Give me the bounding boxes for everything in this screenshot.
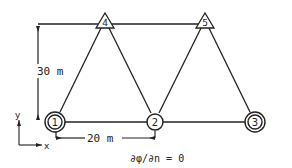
- coordinate-axes: [17, 120, 42, 147]
- node-1-label: 1: [52, 117, 58, 128]
- edge-1-4: [60, 24, 103, 112]
- edge-5-3: [207, 24, 250, 112]
- mesh-edges: [55, 24, 255, 122]
- x-axis-label: x: [44, 141, 50, 151]
- node-5-label: 5: [202, 18, 208, 28]
- horizontal-dimension-label: 20 m: [87, 132, 114, 145]
- node-2: 2: [147, 114, 163, 130]
- node-4: 4: [96, 13, 114, 28]
- arrowhead-right-icon: [149, 136, 155, 140]
- arrowhead-down-icon: [36, 114, 40, 120]
- boundary-condition-label: ∂φ/∂n = 0: [130, 153, 184, 164]
- arrowhead-up-icon: [36, 26, 40, 32]
- edge-2-5: [159, 24, 203, 113]
- edge-4-2: [107, 24, 151, 113]
- y-axis-arrow-icon: [17, 120, 21, 126]
- x-axis-arrow-icon: [36, 143, 42, 147]
- node-3-label: 3: [252, 117, 258, 128]
- node-2-label: 2: [152, 117, 158, 128]
- y-axis-label: y: [15, 110, 21, 120]
- node-4-label: 4: [102, 18, 108, 28]
- finite-element-mesh-diagram: 30 m 20 m y x 1 2 3 4: [0, 0, 292, 168]
- vertical-dimension-label: 30 m: [37, 65, 64, 78]
- node-3: 3: [245, 112, 265, 132]
- arrowhead-left-icon: [56, 136, 62, 140]
- node-5: 5: [196, 13, 214, 28]
- node-1: 1: [45, 112, 65, 132]
